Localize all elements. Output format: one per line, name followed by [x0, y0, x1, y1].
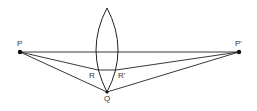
diagram-canvas: P P' Q R R': [0, 0, 257, 111]
point-P-dot: [18, 50, 22, 54]
lens-left-surface: [96, 8, 107, 92]
label-P: P: [17, 40, 22, 48]
label-P-prime: P': [235, 40, 242, 48]
edge-ray-PQP': [20, 52, 239, 92]
lens-right-surface: [107, 8, 118, 92]
label-Q: Q: [104, 95, 110, 103]
point-P-prime-dot: [237, 50, 241, 54]
ray-diagram: [0, 0, 257, 111]
label-R-prime: R': [118, 72, 125, 80]
label-R: R: [89, 72, 95, 80]
